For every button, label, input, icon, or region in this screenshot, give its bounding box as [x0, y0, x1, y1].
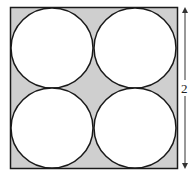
circle-bottom-left [11, 88, 93, 168]
circle-bottom-right [94, 88, 176, 168]
circle-top-left [11, 8, 93, 88]
circle-top-right [94, 8, 176, 88]
square-circles-diagram [0, 0, 193, 171]
side-length-label: 2 [181, 82, 188, 95]
